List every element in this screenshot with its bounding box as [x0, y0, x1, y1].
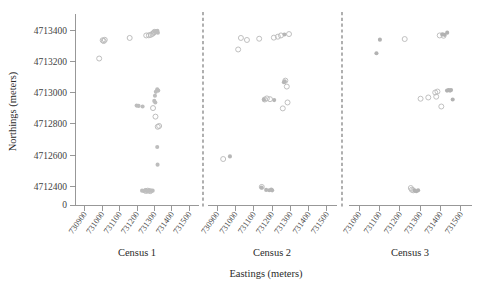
data-point: [97, 56, 102, 61]
data-point: [445, 31, 449, 35]
panel-label-2: Census 2: [253, 247, 291, 258]
data-point: [244, 37, 249, 42]
data-point: [451, 97, 455, 101]
x-axis-title: Eastings (meters): [229, 268, 303, 280]
y-tick-label: 4712600: [34, 151, 68, 161]
data-point: [374, 51, 378, 55]
data-point: [416, 188, 420, 192]
data-point: [127, 35, 132, 40]
data-point: [151, 106, 156, 111]
data-point: [257, 36, 262, 41]
data-point: [260, 186, 264, 190]
data-point: [221, 157, 226, 162]
data-point: [270, 188, 274, 192]
data-point: [156, 163, 160, 167]
data-point: [262, 98, 266, 102]
data-point: [282, 32, 286, 36]
data-point: [283, 79, 287, 83]
series-filled: [135, 29, 161, 193]
data-point: [449, 88, 453, 92]
panel-label-1: Census 1: [118, 247, 156, 258]
data-point: [238, 35, 243, 40]
y-axis: 4712400471260047128004713000471320047134…: [7, 14, 76, 210]
data-point: [155, 145, 159, 149]
series-open: [221, 32, 292, 190]
data-point: [137, 104, 141, 108]
y-tick-label: 4712800: [34, 119, 68, 129]
x-tick-label: 731500: [309, 210, 331, 236]
panel-1: 7309007310007311007312007313007314007315…: [67, 29, 198, 258]
data-point: [153, 94, 157, 98]
series-filled: [374, 31, 454, 194]
data-point: [280, 106, 285, 111]
data-point: [402, 37, 407, 42]
y-tick-label: 4712400: [34, 182, 68, 192]
series-filled: [228, 32, 287, 192]
y-tick-label: 4713400: [34, 26, 68, 36]
x-tick-label: 731100: [362, 210, 384, 236]
data-point: [287, 32, 292, 37]
data-point: [153, 114, 158, 119]
census-scatter-plot: 4712400471260047128004713000471320047134…: [0, 0, 477, 284]
data-point: [426, 95, 431, 100]
x-tick-label: 731500: [443, 210, 465, 236]
x-tick-label: 731500: [172, 210, 194, 236]
data-point: [141, 104, 145, 108]
series-open: [97, 29, 162, 193]
data-point: [285, 100, 290, 105]
data-point: [272, 98, 276, 102]
y-axis-title: Northings (meters): [7, 71, 19, 151]
data-point: [284, 84, 289, 89]
x-tick-label: 731200: [382, 210, 404, 236]
data-point: [156, 89, 160, 93]
data-point: [378, 38, 382, 42]
data-point: [153, 100, 157, 104]
series-open: [402, 33, 446, 193]
panel-3: 731000731100731200731300731400731500Cens…: [342, 31, 472, 258]
x-tick-label: 731400: [423, 210, 445, 236]
data-point: [418, 96, 423, 101]
data-point: [439, 104, 444, 109]
x-tick-label: 731000: [218, 210, 240, 236]
data-point: [156, 31, 160, 35]
y-tick-label: 4713000: [34, 88, 68, 98]
data-point: [236, 47, 241, 52]
x-tick-label: 731000: [342, 210, 364, 236]
panel-2: 7309007310007311007312007313007314007315…: [199, 32, 336, 258]
y-tick-label: 4713200: [34, 57, 68, 67]
data-point: [267, 97, 272, 102]
panel-label-3: Census 3: [391, 247, 429, 258]
data-point: [228, 154, 232, 158]
data-point: [151, 189, 155, 193]
x-tick-label: 731300: [403, 210, 425, 236]
scatter-figure-container: 4712400471260047128004713000471320047134…: [0, 0, 477, 284]
chart-root: 4712400471260047128004713000471320047134…: [7, 12, 472, 280]
y-origin-label: 0: [62, 200, 67, 210]
